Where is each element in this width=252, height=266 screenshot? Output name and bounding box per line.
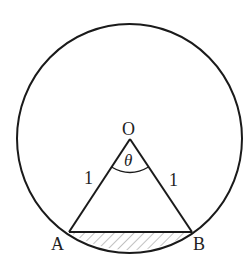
shaded-segment — [69, 232, 192, 250]
diagram-canvas: O θ 1 1 A B — [0, 0, 252, 266]
radius-OB — [130, 139, 192, 232]
side-label-OA: 1 — [84, 168, 93, 188]
point-label-A: A — [51, 234, 64, 254]
point-label-O: O — [122, 119, 135, 139]
circle-sector-diagram: O θ 1 1 A B — [0, 0, 252, 266]
radius-OA — [69, 139, 130, 232]
side-label-OB: 1 — [169, 170, 178, 190]
point-label-B: B — [193, 234, 205, 254]
angle-label-theta: θ — [124, 151, 132, 170]
